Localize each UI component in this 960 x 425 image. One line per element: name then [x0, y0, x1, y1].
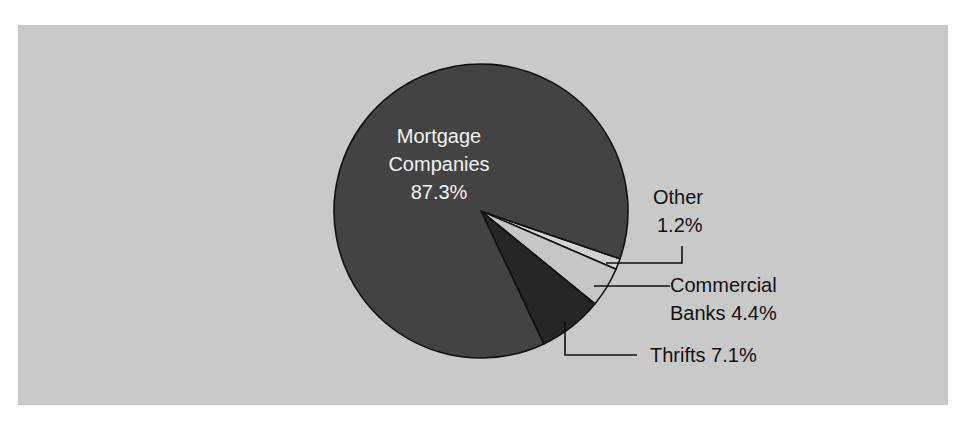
- label-thrifts-value: Thrifts 7.1%: [650, 341, 757, 369]
- label-mortgage-value: 87.3%: [374, 178, 504, 206]
- label-other: Other 1.2%: [653, 183, 703, 239]
- leader-line-thrifts: [565, 322, 637, 355]
- label-other-name: Other: [653, 183, 703, 211]
- label-commercial-line2: Banks 4.4%: [670, 299, 777, 327]
- label-commercial-banks: Commercial Banks 4.4%: [670, 271, 777, 327]
- pie-chart: [0, 0, 960, 425]
- label-mortgage-line1: Mortgage: [374, 122, 504, 150]
- label-commercial-line1: Commercial: [670, 271, 777, 299]
- label-mortgage-line2: Companies: [374, 150, 504, 178]
- label-other-value: 1.2%: [653, 211, 703, 239]
- label-mortgage-companies: Mortgage Companies 87.3%: [374, 122, 504, 206]
- label-thrifts: Thrifts 7.1%: [650, 341, 757, 369]
